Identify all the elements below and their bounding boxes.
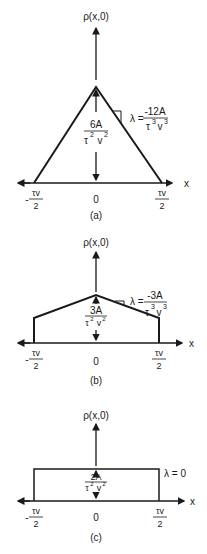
x-axis-label: x	[189, 338, 194, 349]
x-axis-label: x	[184, 178, 189, 189]
svg-text:-: -	[25, 354, 28, 365]
charge-density-diagram: ρ(x,0) x 6A τ 2 v 2 λ = -12A τ 3 v 3	[0, 0, 207, 554]
panel-caption: (a)	[90, 210, 102, 221]
svg-text:2: 2	[33, 361, 38, 371]
svg-text:2: 2	[104, 131, 108, 138]
svg-text:-3A: -3A	[147, 290, 163, 301]
svg-text:τv: τv	[32, 348, 41, 358]
peak-value-label: 6A τ 2 v 2	[84, 119, 108, 146]
svg-text:τv: τv	[156, 506, 165, 516]
slope-label: λ = 0	[164, 468, 186, 479]
tick-left: - τv 2	[25, 188, 43, 211]
svg-text:λ =: λ =	[130, 113, 144, 124]
svg-text:τv: τv	[155, 348, 164, 358]
peak-value-label: 3A τ 2 v 2	[85, 305, 107, 328]
svg-text:-12A: -12A	[144, 106, 165, 117]
panel-a: ρ(x,0) x 6A τ 2 v 2 λ = -12A τ 3 v 3	[18, 11, 189, 221]
svg-text:6A: 6A	[90, 119, 103, 130]
svg-text:τ: τ	[85, 483, 89, 493]
svg-text:3: 3	[164, 118, 168, 125]
svg-text:τv: τv	[32, 188, 41, 198]
tick-right: τv 2	[155, 188, 169, 211]
svg-text:v: v	[97, 483, 102, 493]
peak-value-label: 2A τ 2 v 2	[85, 472, 107, 493]
y-axis-label: ρ(x,0)	[83, 237, 109, 248]
svg-text:v: v	[158, 121, 163, 132]
svg-text:λ =: λ =	[130, 296, 144, 307]
svg-text:2: 2	[33, 519, 38, 529]
svg-text:τ: τ	[146, 121, 150, 132]
svg-text:2: 2	[90, 131, 94, 138]
svg-text:v: v	[97, 318, 102, 328]
tick-center: 0	[93, 356, 99, 367]
svg-text:-: -	[25, 194, 28, 205]
panel-c: ρ(x,0) x 2A τ 2 v 2 λ = 0 - τv 2 0 τv 2 …	[18, 410, 195, 543]
panel-b: ρ(x,0) x 3A τ 2 v 2 λ = -3A τ 3 v 3 - τv	[18, 237, 194, 386]
svg-text:2: 2	[159, 201, 164, 211]
tick-left: - τv 2	[25, 348, 43, 371]
svg-text:v: v	[98, 135, 103, 146]
svg-text:τ: τ	[85, 318, 89, 328]
svg-text:2: 2	[33, 201, 38, 211]
x-axis-label: x	[190, 496, 195, 507]
tick-center: 0	[93, 194, 99, 205]
slope-label: λ = -3A τ 3 v 3	[130, 290, 167, 318]
svg-text:τ: τ	[145, 307, 149, 318]
tick-center: 0	[93, 512, 99, 523]
tick-left: - τv 2	[25, 506, 43, 529]
panel-caption: (c)	[90, 532, 102, 543]
svg-text:2: 2	[102, 316, 106, 322]
svg-text:τv: τv	[32, 506, 41, 516]
svg-text:2: 2	[156, 361, 161, 371]
svg-text:v: v	[157, 307, 162, 318]
svg-text:3: 3	[163, 303, 167, 310]
svg-text:τv: τv	[158, 188, 167, 198]
svg-text:-: -	[25, 512, 28, 523]
svg-text:2: 2	[90, 316, 94, 322]
y-axis-label: ρ(x,0)	[83, 410, 109, 421]
svg-text:τ: τ	[84, 135, 88, 146]
svg-text:3A: 3A	[90, 305, 103, 316]
y-axis-label: ρ(x,0)	[83, 11, 109, 22]
panel-caption: (b)	[90, 375, 102, 386]
tick-right: τv 2	[152, 348, 166, 371]
svg-text:2: 2	[157, 519, 162, 529]
tick-right: τv 2	[153, 506, 167, 529]
svg-text:3: 3	[151, 303, 155, 310]
slope-label: λ = -12A τ 3 v 3	[130, 106, 168, 132]
svg-text:3: 3	[152, 118, 156, 125]
